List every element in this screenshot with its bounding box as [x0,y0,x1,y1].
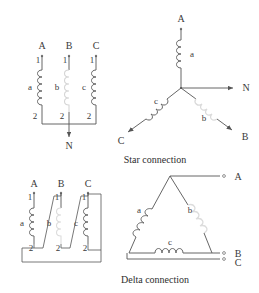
delta-connection-diagram: A a b c B C [127,171,242,268]
delta-winding-diagram: A B C 1 1 1 a b c 2 2 2 [20,178,101,262]
star-connection-lead-c2 [128,119,146,132]
star-connection-caption: Star connection [124,154,186,165]
delta-winding-terminal-b-label: B [58,178,65,189]
star-winding-coil-b [65,70,70,112]
delta-connection-caption: Delta connection [121,274,189,285]
delta-connection-terminal-c-label: C [235,257,242,268]
delta-connection-coil-a-label: a [137,205,141,215]
delta-connection-coil-c [155,249,188,254]
star-connection-coil-b-label: b [202,113,207,123]
star-winding-terminal-b-label: B [66,40,73,51]
star-connection-terminal-n-label: N [242,82,249,93]
star-connection-terminal-b-label: B [242,131,249,142]
delta-connection-terminal-a-label: A [234,171,242,182]
star-connection-lead-b1 [181,88,196,99]
delta-connection-lead-a2 [129,237,136,253]
delta-winding-terminal-a-label: A [30,178,38,189]
delta-winding-coil-c [84,208,89,244]
delta-connection-coil-b-label: b [188,205,193,215]
star-winding-num1-c: 1 [90,55,95,65]
delta-connection-coil-c-label: c [168,237,172,247]
star-winding-terminal-c-label: C [93,40,100,51]
delta-winding-num1-c: 1 [82,192,87,202]
delta-winding-link-c2-a1-outer [88,194,101,250]
star-connection-coil-a-label: a [190,49,194,59]
star-winding-coil-c-label: c [82,82,86,92]
star-connection-terminal-a-label: A [177,13,185,24]
delta-winding-num2-c: 2 [83,243,88,253]
star-connection-coil-c-label: c [154,96,158,106]
star-winding-coil-c [92,70,97,112]
star-connection-lead-b2 [217,119,232,130]
star-winding-neutral-label: N [65,140,72,151]
delta-winding-terminal-c-label: C [85,178,92,189]
star-winding-coil-a [38,70,43,112]
star-connection-diagram: A a N b B c C [118,13,250,146]
star-winding-num2-c: 2 [87,111,92,121]
star-winding-num1-b: 1 [63,55,68,65]
delta-winding-num1-b: 1 [55,192,60,202]
star-connection-coil-a [177,40,182,88]
delta-connection-lead-b2 [204,233,212,253]
star-winding-coil-a-label: a [28,82,32,92]
delta-connection-lead-a1 [152,176,170,209]
delta-connection-dot-c [223,258,226,261]
star-connection-lead-c1 [167,88,181,99]
delta-connection-lead-b1 [170,176,188,205]
star-winding-terminal-a-label: A [38,40,46,51]
star-winding-num2-b: 2 [60,111,65,121]
delta-connection-dot-b [223,252,226,255]
star-winding-num1-a: 1 [36,55,41,65]
delta-connection-coil-a [133,209,152,237]
three-phase-winding-figure: A B C 1 1 1 a b c 2 2 2 N A [0,0,259,293]
star-winding-diagram: A B C 1 1 1 a b c 2 2 2 N [28,40,100,151]
star-winding-coil-b-label: b [55,82,60,92]
figure-canvas: A B C 1 1 1 a b c 2 2 2 N A [0,0,259,293]
star-connection-terminal-c-label: C [118,135,125,146]
delta-winding-coil-b [57,208,62,244]
delta-winding-num2-b: 2 [56,243,61,253]
delta-connection-dot-a [223,175,226,178]
delta-winding-coil-a [30,208,35,244]
delta-winding-bottom-bus [22,250,101,262]
delta-winding-coil-a-label: a [20,218,24,228]
delta-winding-num1-a: 1 [28,192,33,202]
star-winding-num2-a: 2 [33,111,38,121]
